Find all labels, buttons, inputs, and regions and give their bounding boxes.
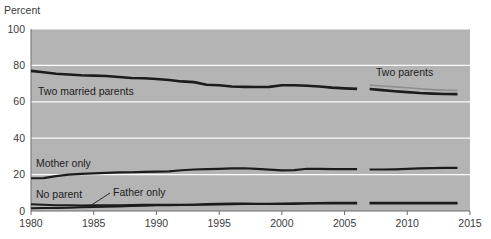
series-annotation-no-parent: No parent — [36, 188, 82, 200]
x-axis-tick-label: 1995 — [207, 217, 231, 229]
y-axis-tick-label: 80 — [13, 59, 25, 71]
chart-container: 0204060801001980198519901995200020052010… — [0, 0, 491, 239]
y-axis-title: Percent — [4, 4, 40, 16]
x-axis-tick-label: 2015 — [458, 217, 482, 229]
x-axis-tick-label: 1990 — [145, 217, 169, 229]
series-annotation-two-parents: Two parents — [376, 66, 433, 78]
y-axis-tick-label: 60 — [13, 95, 25, 107]
series-annotation-father-only: Father only — [113, 186, 166, 198]
series-annotation-mother-only: Mother only — [36, 157, 92, 169]
y-axis-tick-label: 100 — [7, 23, 25, 35]
y-axis-tick-label: 0 — [19, 205, 25, 217]
x-axis-tick-label: 2010 — [396, 217, 420, 229]
line-chart: 0204060801001980198519901995200020052010… — [0, 0, 491, 239]
x-axis-tick-label: 2005 — [333, 217, 357, 229]
series-annotation-two-married-parents: Two married parents — [38, 85, 134, 97]
plot-area-background — [31, 29, 470, 211]
x-axis-tick-label: 2000 — [270, 217, 294, 229]
y-axis-tick-label: 20 — [13, 168, 25, 180]
x-axis-tick-label: 1980 — [19, 217, 43, 229]
x-axis-tick-label: 1985 — [82, 217, 106, 229]
y-axis-tick-label: 40 — [13, 132, 25, 144]
